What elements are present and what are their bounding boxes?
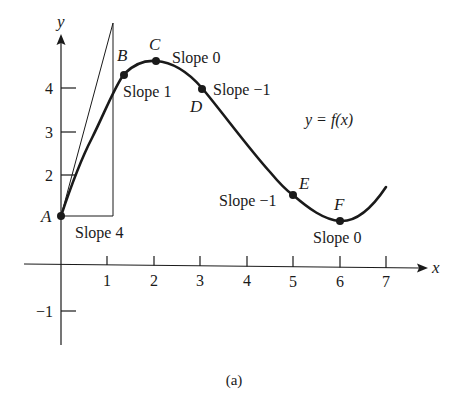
slope-label-C: Slope 0: [172, 49, 220, 67]
slope-label-D: Slope −1: [213, 81, 270, 99]
slope-label-B: Slope 1: [123, 83, 171, 101]
x-axis-label: x: [431, 258, 440, 277]
slope-label-A: Slope 4: [75, 224, 123, 242]
svg-text:7: 7: [382, 273, 390, 290]
x-ticks: [107, 256, 386, 268]
svg-text:4: 4: [45, 80, 53, 97]
label-D: D: [189, 97, 203, 116]
point-B: [120, 71, 128, 79]
point-F: [336, 217, 344, 225]
svg-text:5: 5: [289, 273, 297, 290]
point-D: [198, 85, 206, 93]
figure-caption: (a): [226, 372, 243, 389]
derivative-slope-figure: x y 1 2 3 4 5 6 7 4 3 2 −1: [0, 0, 467, 403]
svg-text:3: 3: [196, 272, 204, 289]
y-tick-labels: 4 3 2 −1: [36, 80, 53, 320]
x-tick-labels: 1 2 3 4 5 6 7: [103, 272, 390, 290]
label-A: A: [40, 207, 52, 226]
svg-text:6: 6: [336, 273, 344, 290]
label-C: C: [149, 35, 161, 54]
svg-text:4: 4: [243, 272, 251, 289]
label-F: F: [333, 195, 345, 214]
svg-text:3: 3: [45, 124, 53, 141]
y-axis-label: y: [55, 12, 65, 31]
label-B: B: [117, 46, 128, 65]
tangent-at-A: [61, 23, 113, 216]
slope-label-F: Slope 0: [313, 229, 361, 247]
svg-text:2: 2: [45, 167, 53, 184]
point-C: [152, 57, 160, 65]
curve-points: [57, 57, 344, 225]
label-E: E: [298, 174, 310, 193]
svg-text:−1: −1: [36, 303, 53, 320]
slope-label-E: Slope −1: [219, 192, 276, 210]
svg-text:1: 1: [103, 272, 111, 289]
point-E: [289, 191, 297, 199]
slope-labels: Slope 4 Slope 1 Slope 0 Slope −1 Slope −…: [75, 49, 361, 247]
function-label: y = f(x): [303, 111, 353, 129]
svg-text:2: 2: [150, 272, 158, 289]
y-ticks: [61, 88, 76, 311]
point-A: [57, 212, 65, 220]
x-axis: [24, 264, 420, 268]
